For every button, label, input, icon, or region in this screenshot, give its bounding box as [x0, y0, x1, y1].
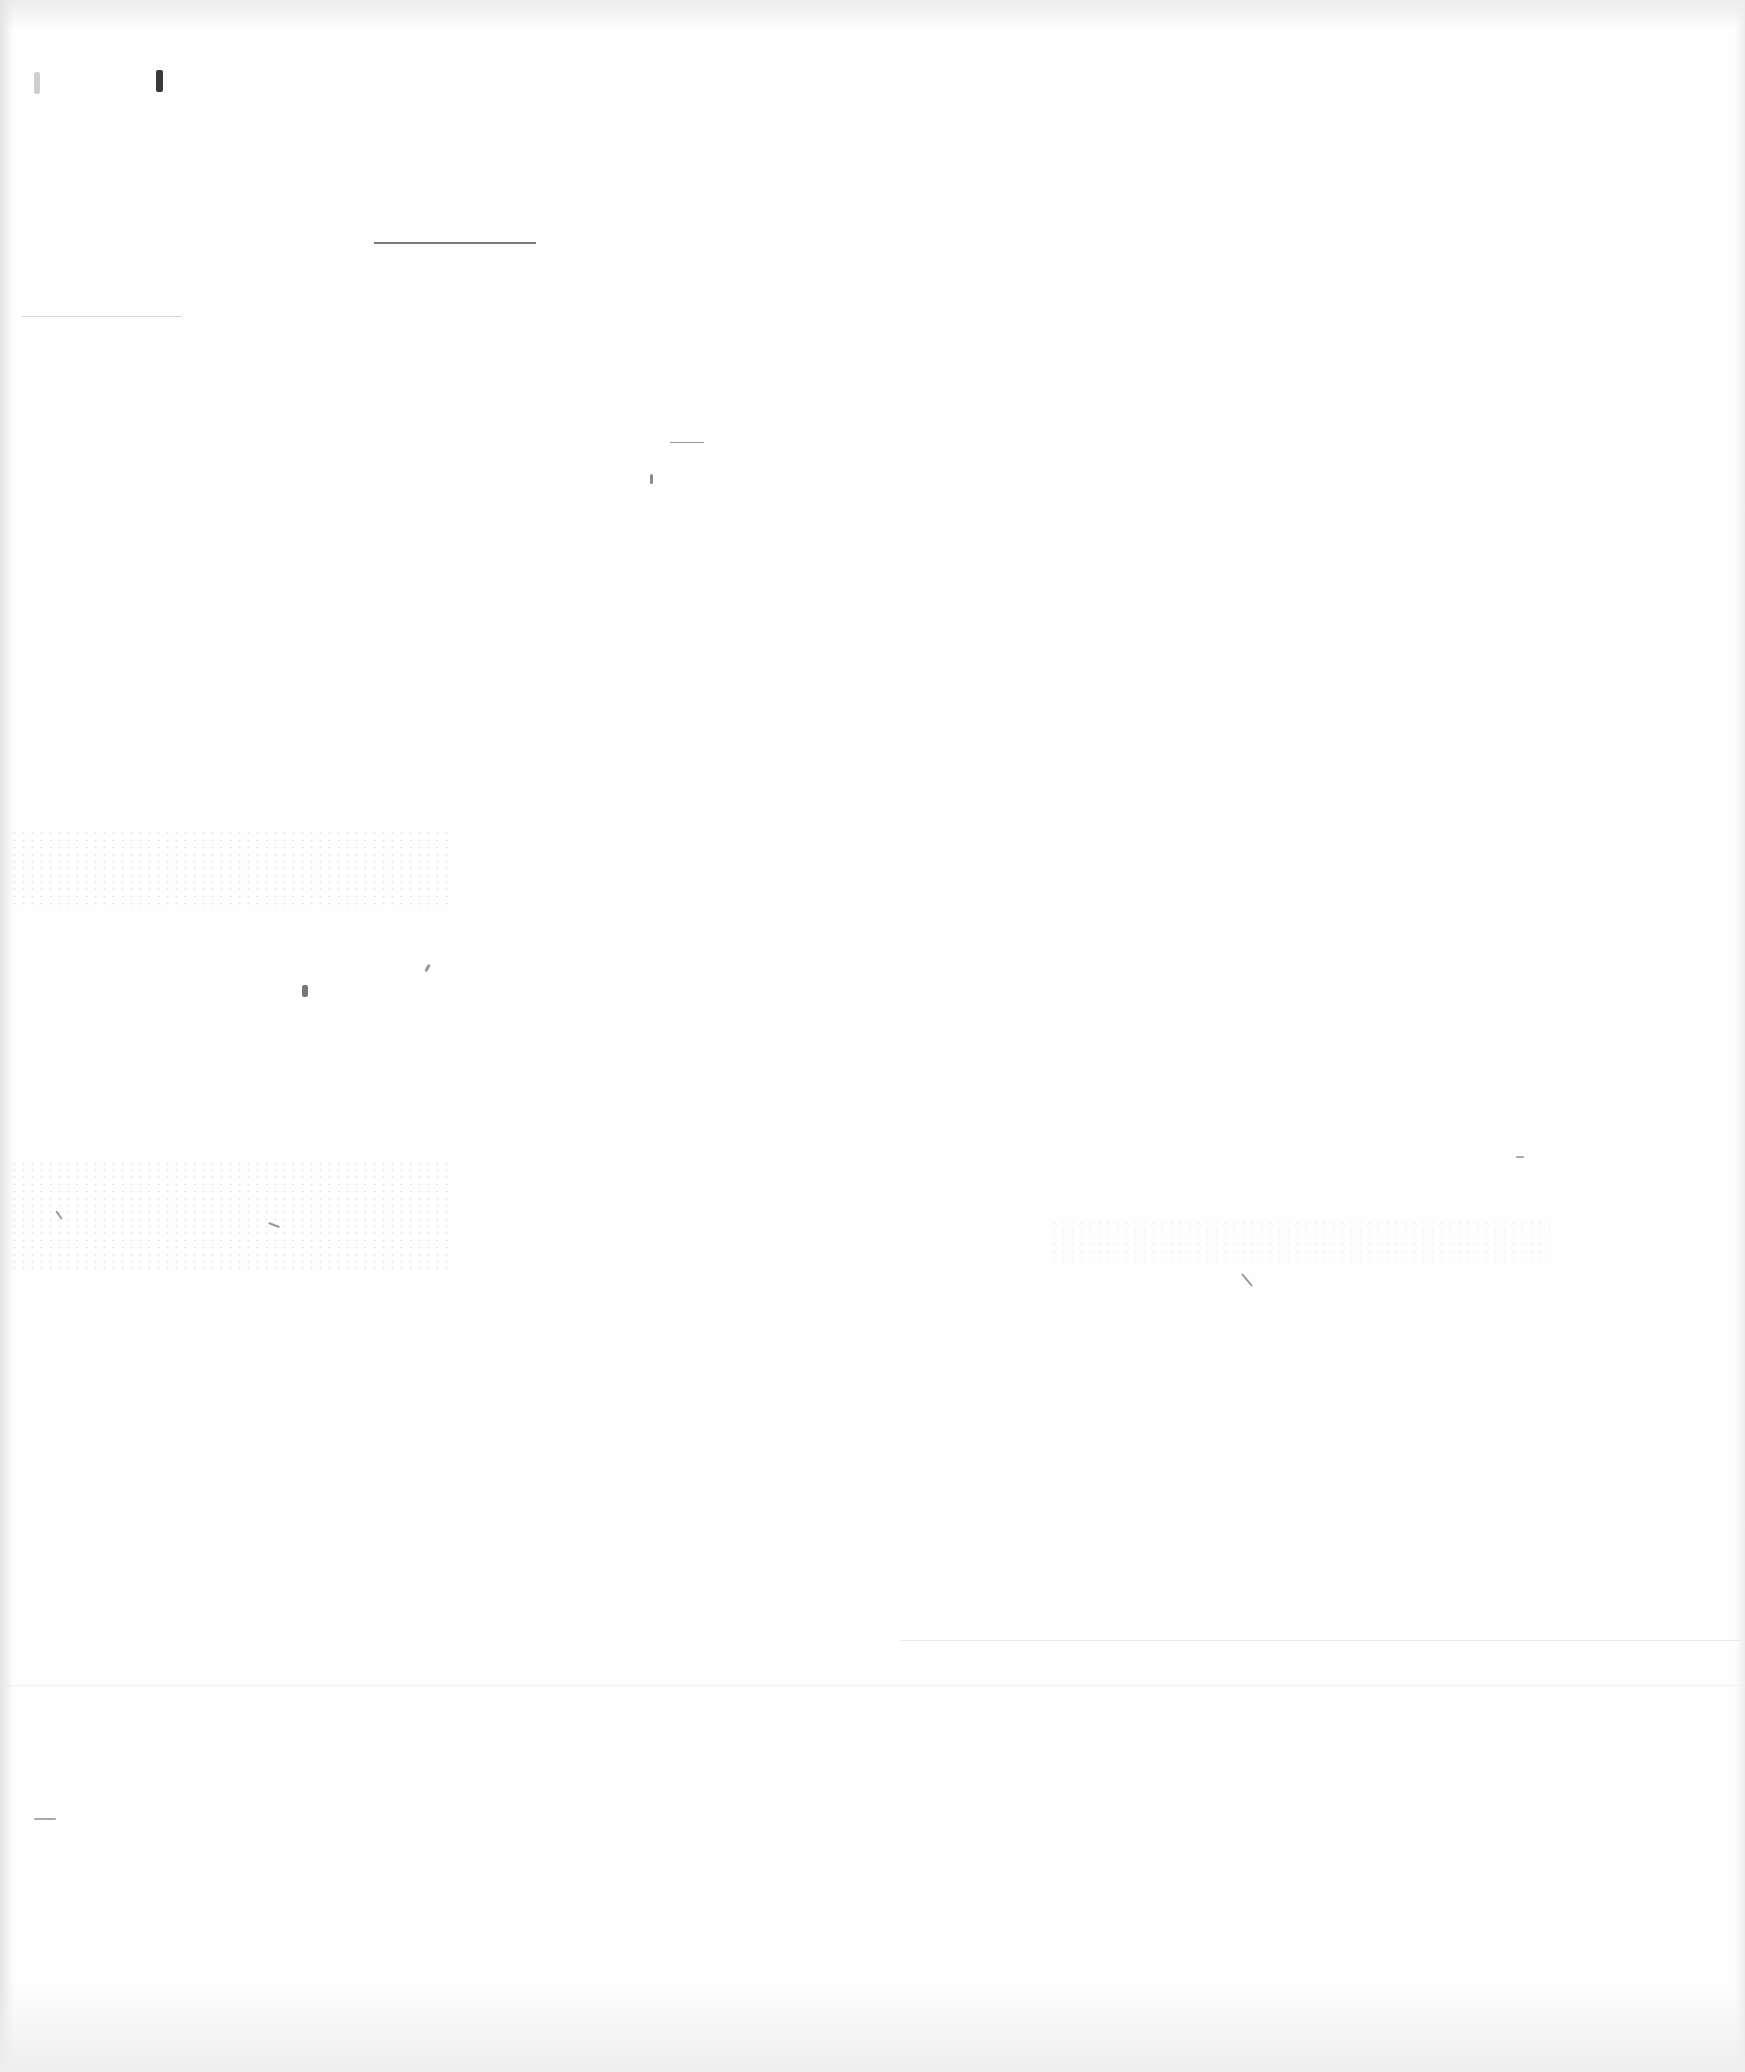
smudge-mark	[156, 70, 163, 92]
scan-speckle-band	[10, 1160, 450, 1270]
smudge-mark	[34, 72, 40, 94]
scan-speckle-band	[10, 830, 450, 910]
scan-edge-right	[1735, 0, 1745, 2072]
scan-edge-left	[0, 0, 14, 2072]
stray-mark	[1241, 1273, 1253, 1287]
faint-scan-line	[900, 1640, 1740, 1641]
stray-mark	[650, 474, 653, 484]
short-dash-rule	[670, 442, 704, 443]
stray-mark	[302, 985, 308, 997]
stray-mark	[424, 964, 431, 972]
horizontal-rule	[374, 242, 536, 244]
scan-speckle-band	[1050, 1220, 1550, 1260]
blank-page	[0, 0, 1745, 2072]
faint-horizontal-rule	[22, 316, 182, 317]
stray-mark	[34, 1818, 56, 1820]
stray-mark	[1516, 1156, 1524, 1158]
faint-scan-line	[0, 1685, 1745, 1686]
scan-edge-bottom	[0, 1982, 1745, 2072]
scan-edge-top	[0, 0, 1745, 28]
